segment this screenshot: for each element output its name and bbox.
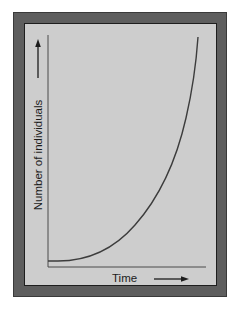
y-axis-label: Number of individuals [32, 100, 44, 211]
up-arrow-icon [35, 39, 41, 78]
x-axis-label: Time [112, 272, 137, 284]
right-arrow-icon [154, 276, 189, 282]
growth-curve [48, 37, 198, 261]
